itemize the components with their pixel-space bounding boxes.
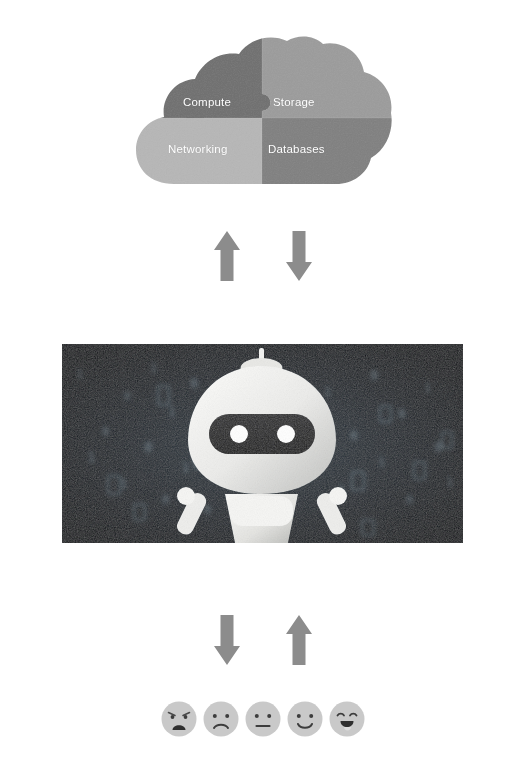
robot-eye-left [230,425,248,443]
svg-text:0: 0 [406,493,413,507]
arrow-up-label: Up to cloud [262,256,263,257]
robot-eye-right [277,425,295,443]
face-angry-icon[interactable]: Angry [160,700,198,738]
svg-text:1: 1 [378,455,385,469]
arrow-down-icon [285,230,313,282]
arrow-up-icon [285,614,313,666]
robot-user-exchange-arrows: Down to user Up to robot [0,612,525,668]
svg-text:1: 1 [182,461,189,475]
arrow-up-label: Up to robot [262,640,263,641]
cloud-label-databases: Databases [268,143,325,155]
svg-text:1: 1 [424,381,431,395]
robot-visor [209,414,315,454]
cloud-label-storage: Storage [273,96,315,108]
arrow-down-label: Down to robot [262,256,263,257]
svg-text:0: 0 [144,439,152,455]
diagram-title: Cloud services, AI robot agent and user … [0,0,1,1]
face-laughing-label: Very happy [328,738,329,739]
svg-text:0: 0 [350,428,358,443]
satisfaction-face-scale: Angry Sad Neutral [0,697,525,741]
face-neutral-label: Neutral [244,738,245,739]
face-angry-label: Angry [160,738,161,739]
cloud-puzzle-svg [130,32,395,194]
ai-robot-illustration: 1 0 1 0 1 1 0 1 0 0 1 1 0 0 1 0 1 [62,344,463,543]
svg-text:0: 0 [370,367,378,383]
face-laughing-icon[interactable]: Very happy [328,700,366,738]
svg-text:0: 0 [124,390,131,403]
svg-text:0: 0 [434,439,442,455]
cloud-label-networking: Networking [168,143,228,155]
arrow-down-label: Down to user [262,640,263,641]
face-happy-icon[interactable]: Happy [286,700,324,738]
svg-text:1: 1 [76,366,84,381]
face-sad-label: Sad [202,738,203,739]
svg-text:1: 1 [446,475,453,489]
ai-robot-photo: 1 0 1 0 1 1 0 1 0 0 1 1 0 0 1 0 1 [62,344,463,543]
cloud-puzzle: Compute Storage Networking Databases [130,32,395,194]
svg-text:0: 0 [190,375,198,391]
arrow-down-icon [213,614,241,666]
face-neutral-icon[interactable]: Neutral [244,700,282,738]
svg-text:0: 0 [162,493,169,507]
svg-text:1: 1 [120,476,128,491]
diagram-canvas: Compute Storage Networking Databases Up … [0,0,525,770]
cloud-robot-exchange-arrows: Up to cloud Down to robot [0,228,525,284]
face-happy-label: Happy [286,738,287,739]
svg-text:1: 1 [324,385,331,399]
svg-text:1: 1 [168,404,176,419]
arrow-up-icon [213,230,241,282]
svg-text:8: 8 [398,406,406,421]
svg-text:1: 1 [150,361,157,375]
face-sad-icon[interactable]: Sad [202,700,240,738]
svg-text:0: 0 [102,425,109,439]
svg-text:1: 1 [87,449,95,465]
robot-chest-panel [230,496,293,526]
cloud-label-compute: Compute [183,96,231,108]
